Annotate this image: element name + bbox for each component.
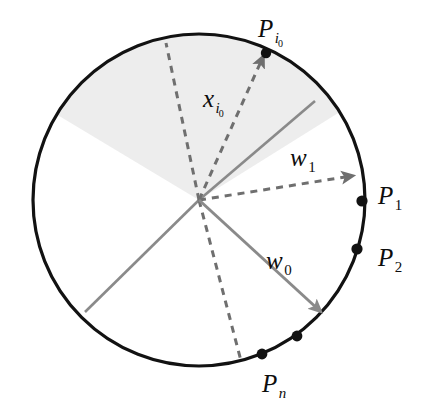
- label-x-i0-subsub: 0: [219, 108, 224, 119]
- label-w-1-base: w: [290, 144, 307, 171]
- label-p-2-sub: 2: [395, 259, 403, 275]
- label-w-1-sub: 1: [308, 159, 316, 175]
- figure-root: Pi0 xi0 w1 P1 w0 P2 Pn: [0, 0, 429, 415]
- label-p-1: P1: [378, 183, 401, 208]
- label-x-i0: xi0: [203, 86, 224, 111]
- label-p-2-base: P: [378, 244, 394, 271]
- diagram-canvas: [0, 0, 429, 415]
- label-w-0-base: w: [266, 247, 283, 274]
- solid-vector-lines: [199, 200, 320, 311]
- label-p-i0: Pi0: [258, 16, 283, 41]
- sector-boundary-lower: [85, 200, 199, 312]
- label-p-i0-subsub: 0: [278, 38, 283, 49]
- label-p-2: P2: [378, 245, 401, 270]
- point-p1: [356, 195, 367, 206]
- label-x-i0-base: x: [203, 85, 215, 112]
- label-p-n-sub: n: [279, 385, 287, 401]
- label-p-i0-base: P: [258, 15, 274, 42]
- point-pi0: [261, 48, 271, 58]
- point-p2: [351, 243, 362, 254]
- label-w-0: w0: [266, 248, 291, 273]
- label-p-1-base: P: [378, 182, 394, 209]
- label-w-0-sub: 0: [284, 262, 292, 278]
- label-p-n: Pn: [262, 371, 285, 396]
- point-pn-upper: [292, 331, 303, 342]
- dashed-ray-lower: [199, 200, 241, 361]
- point-pn-lower: [257, 349, 268, 360]
- label-p-n-base: P: [262, 370, 278, 397]
- label-w-1: w1: [290, 145, 315, 170]
- vector-w0: [199, 200, 320, 311]
- label-p-1-sub: 1: [395, 197, 403, 213]
